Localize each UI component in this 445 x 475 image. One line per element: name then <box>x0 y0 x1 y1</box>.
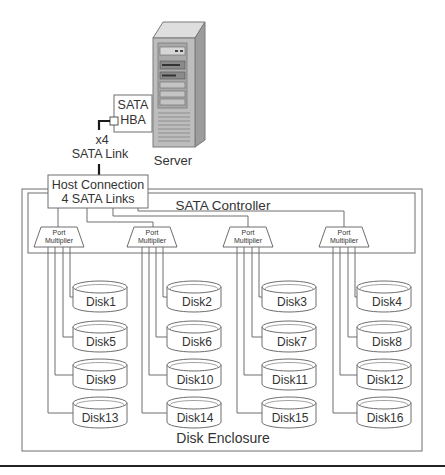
svg-text:Disk16: Disk16 <box>367 411 404 425</box>
disk-15: Disk15 <box>262 397 316 428</box>
link-multiplier-label: x4 <box>95 133 108 147</box>
disk-8: Disk8 <box>357 321 411 352</box>
svg-text:Disk15: Disk15 <box>272 411 309 425</box>
svg-text:Disk14: Disk14 <box>177 411 214 425</box>
svg-text:Port: Port <box>242 229 255 236</box>
port-multiplier-2: Port Multiplier <box>127 227 177 247</box>
disk-13: Disk13 <box>73 397 127 428</box>
disk-6: Disk6 <box>167 321 221 352</box>
disk-1: Disk1 <box>73 281 127 312</box>
svg-text:Disk3: Disk3 <box>277 295 307 309</box>
server-label: Server <box>154 153 193 168</box>
sata-link-upper <box>99 121 110 130</box>
disk-14: Disk14 <box>167 397 221 428</box>
disk-12: Disk12 <box>357 359 411 390</box>
port-multiplier-1: Port Multiplier <box>34 227 84 247</box>
svg-text:Multiplier: Multiplier <box>45 237 74 245</box>
svg-text:Disk10: Disk10 <box>177 373 214 387</box>
disk-9: Disk9 <box>73 359 127 390</box>
svg-text:Port: Port <box>146 229 159 236</box>
svg-text:Disk9: Disk9 <box>86 373 116 387</box>
disk-2: Disk2 <box>167 281 221 312</box>
sata-topology-diagram: Server SATA HBA x4 SATA Link Disk Enclos… <box>0 0 445 475</box>
hba-port-icon <box>110 117 118 125</box>
svg-text:Multiplier: Multiplier <box>138 237 167 245</box>
svg-text:Disk13: Disk13 <box>82 411 119 425</box>
port-multiplier-4: Port Multiplier <box>319 227 369 247</box>
port-multiplier-3: Port Multiplier <box>223 227 273 247</box>
svg-text:Port: Port <box>338 229 351 236</box>
svg-text:Disk6: Disk6 <box>182 335 212 349</box>
svg-text:Disk2: Disk2 <box>182 295 212 309</box>
svg-text:Disk11: Disk11 <box>272 373 308 387</box>
svg-text:Disk5: Disk5 <box>86 335 116 349</box>
disk-11: Disk11 <box>262 359 316 390</box>
disk-16: Disk16 <box>357 397 411 428</box>
disk-4: Disk4 <box>357 281 411 312</box>
svg-text:Disk4: Disk4 <box>372 295 402 309</box>
svg-text:Disk1: Disk1 <box>86 295 116 309</box>
hba-label-line2: HBA <box>120 113 146 127</box>
host-connection-line1: Host Connection <box>52 178 144 192</box>
disk-7: Disk7 <box>262 321 316 352</box>
link-label: SATA Link <box>72 147 129 161</box>
svg-text:Multiplier: Multiplier <box>234 237 263 245</box>
enclosure-label: Disk Enclosure <box>176 430 270 446</box>
svg-text:Port: Port <box>53 229 66 236</box>
server-icon <box>153 22 205 147</box>
disk-3: Disk3 <box>262 281 316 312</box>
svg-text:Disk12: Disk12 <box>367 373 404 387</box>
host-connection-line2: 4 SATA Links <box>61 192 134 206</box>
hba-label-line1: SATA <box>118 98 149 112</box>
svg-text:Disk8: Disk8 <box>372 335 402 349</box>
svg-text:Disk7: Disk7 <box>277 335 307 349</box>
disk-5: Disk5 <box>73 321 127 352</box>
svg-text:Multiplier: Multiplier <box>330 237 359 245</box>
disk-10: Disk10 <box>167 359 221 390</box>
